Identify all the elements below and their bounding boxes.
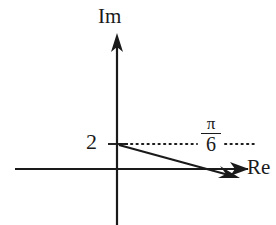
magnitude-label-2: 2 <box>86 131 97 153</box>
imaginary-axis-label: Im <box>98 6 121 27</box>
phasor-diagram-canvas <box>0 0 276 225</box>
angle-annotation: π 6 <box>198 116 224 154</box>
angle-numerator-pi: π <box>198 116 224 132</box>
real-axis-label: Re <box>247 157 270 178</box>
angle-denominator-6: 6 <box>198 135 224 154</box>
phasor-diagram-figure: Im Re 2 π 6 <box>0 0 276 225</box>
